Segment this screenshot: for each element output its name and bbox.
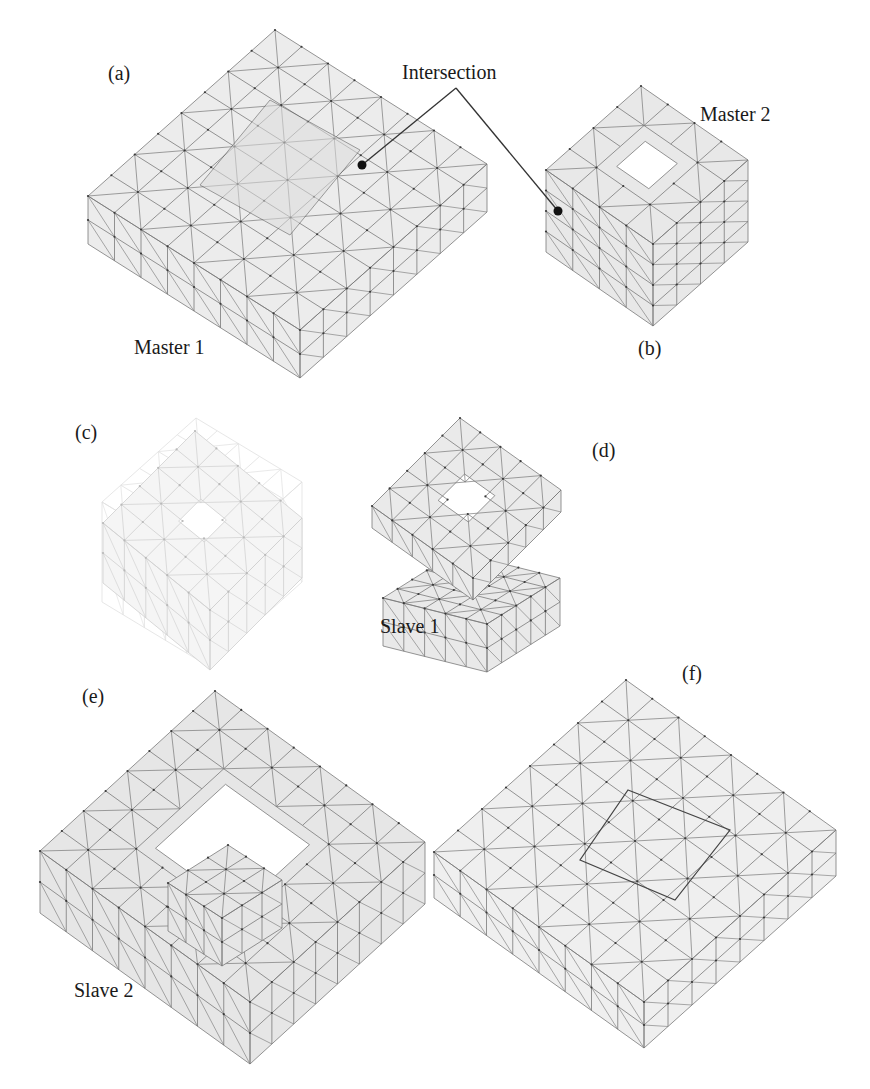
mesh-combined-f <box>433 679 836 1048</box>
master-2-label: Master 2 <box>700 104 771 124</box>
master-1-label: Master 1 <box>134 337 205 357</box>
panel-tag-d: (d) <box>592 440 615 460</box>
panel-tag-e: (e) <box>82 686 104 706</box>
slave-1-label: Slave 1 <box>380 616 439 636</box>
panel-tag-a: (a) <box>108 63 130 83</box>
panel-tag-b: (b) <box>638 338 661 358</box>
intersection-point-b <box>554 207 563 216</box>
mesh-overlay-c <box>102 418 302 670</box>
intersection-point-a <box>358 161 367 170</box>
slave-2-label: Slave 2 <box>74 980 133 1000</box>
intersection-label: Intersection <box>402 62 496 82</box>
mesh-figure <box>0 0 870 1089</box>
panel-tag-c: (c) <box>75 422 97 442</box>
panel-tag-f: (f) <box>682 663 702 683</box>
mesh-slave-2 <box>39 690 425 1064</box>
